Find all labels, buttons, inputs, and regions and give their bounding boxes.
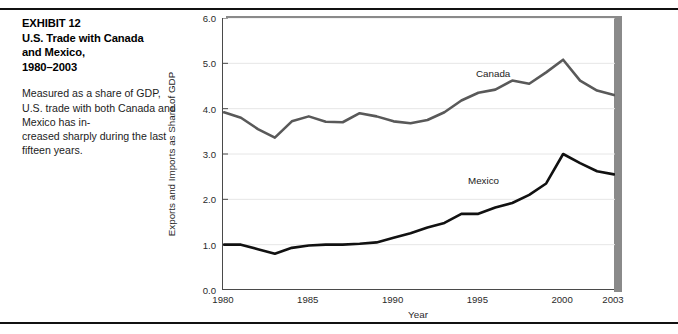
series-label-mexico: Mexico xyxy=(468,175,499,186)
page-title: EXHIBIT 12 U.S. Trade with Canada and Me… xyxy=(22,16,182,74)
x-tick-label: 2003 xyxy=(602,294,623,305)
y-axis-title: Exports and Imports as Share of GDP xyxy=(166,18,182,290)
plot-shadow-right xyxy=(614,16,622,292)
caption-block: EXHIBIT 12 U.S. Trade with Canada and Me… xyxy=(22,16,182,157)
y-tick-label: 3.0 xyxy=(190,149,216,160)
chart-canvas xyxy=(223,18,615,290)
x-tick-label: 1985 xyxy=(297,294,318,305)
x-axis-ticks: 198019851990199520002003 xyxy=(222,294,614,308)
plot-area xyxy=(222,18,618,290)
plot-frame xyxy=(222,18,614,290)
y-tick-label: 5.0 xyxy=(190,58,216,69)
exhibit-figure: EXHIBIT 12 U.S. Trade with Canada and Me… xyxy=(0,0,678,334)
bottom-rule xyxy=(0,322,678,324)
y-tick-label: 4.0 xyxy=(190,103,216,114)
top-rule xyxy=(0,8,678,10)
caption-description: Measured as a share of GDP, U.S. trade w… xyxy=(22,86,182,157)
series-line-canada xyxy=(224,60,614,138)
x-tick-label: 1980 xyxy=(212,294,233,305)
y-tick-label: 1.0 xyxy=(190,239,216,250)
x-axis-title: Year xyxy=(222,309,614,320)
x-tick-label: 2000 xyxy=(551,294,572,305)
series-line-mexico xyxy=(224,154,614,254)
x-tick-label: 1995 xyxy=(467,294,488,305)
y-axis-ticks: 0.01.02.03.04.05.06.0 xyxy=(186,18,216,290)
y-tick-label: 2.0 xyxy=(190,194,216,205)
y-tick-label: 6.0 xyxy=(190,13,216,24)
series-label-canada: Canada xyxy=(476,68,510,79)
x-tick-label: 1990 xyxy=(382,294,403,305)
